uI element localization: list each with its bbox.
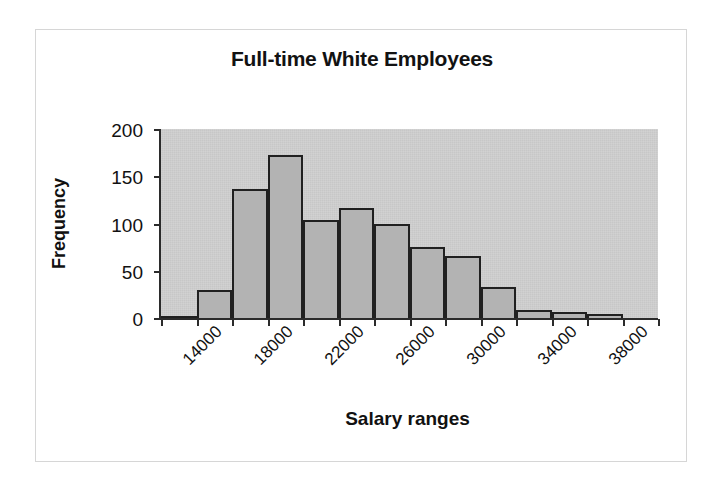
histogram-bar (161, 316, 197, 318)
x-axis-tick-label: 34000 (534, 322, 582, 370)
histogram-bar (232, 189, 268, 318)
y-axis-tick: 0 (154, 318, 161, 320)
y-axis-tick-label: 150 (111, 167, 143, 189)
y-axis-title-label: Frequency (48, 129, 70, 318)
histogram-bar (587, 314, 623, 318)
histogram-bar (552, 312, 588, 318)
x-axis-tick-label: 30000 (463, 322, 511, 370)
y-axis-tick-label: 100 (111, 214, 143, 236)
histogram-bar (516, 310, 552, 318)
x-axis-tick-label: 26000 (392, 322, 440, 370)
histogram-bar (197, 290, 233, 318)
chart-title: Full-time White Employees (36, 47, 688, 71)
y-axis-tick: 100 (154, 224, 161, 226)
plot-area: 050100150200 (159, 129, 658, 320)
x-axis-title: Salary ranges (159, 408, 656, 430)
histogram-bars (161, 129, 658, 318)
histogram-bar (339, 208, 375, 318)
histogram-bar (303, 220, 339, 318)
x-axis-tick (658, 319, 660, 326)
y-axis-tick-label: 0 (132, 309, 143, 331)
histogram-bar (445, 256, 481, 318)
histogram-bar (410, 247, 446, 318)
y-axis-tick: 50 (154, 271, 161, 273)
y-axis-tick-label: 200 (111, 120, 143, 142)
y-axis-tick: 200 (154, 129, 161, 131)
x-axis-tick-label: 38000 (605, 322, 653, 370)
x-axis-tick-labels: 14000180002200026000300003400038000 (159, 322, 656, 402)
figure-frame: Full-time White Employees Frequency 0501… (35, 29, 687, 462)
histogram-bar (374, 224, 410, 318)
y-axis-tick: 150 (154, 176, 161, 178)
y-axis-title: Frequency (48, 0, 70, 129)
x-axis-tick-label: 18000 (250, 322, 298, 370)
histogram-bar (481, 287, 517, 318)
histogram-bar (268, 155, 304, 318)
y-axis-tick-label: 50 (122, 261, 143, 283)
x-axis-tick-label: 14000 (179, 322, 227, 370)
x-axis-tick-label: 22000 (321, 322, 369, 370)
